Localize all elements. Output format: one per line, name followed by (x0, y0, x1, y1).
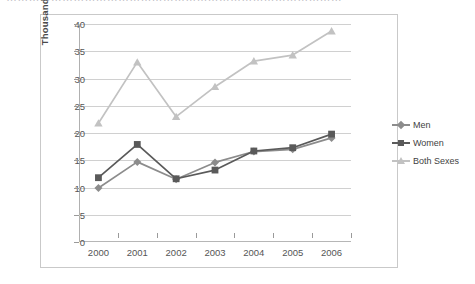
plot-area (79, 24, 351, 242)
data-point-marker (250, 148, 257, 155)
data-point-marker (212, 167, 219, 174)
y-tick-label: 30 (57, 73, 85, 84)
y-tick-label: 35 (57, 46, 85, 57)
legend-marker (397, 157, 405, 164)
clipped-header-text: ……………………………………………………………………………… (6, 0, 342, 3)
y-tick-mark (74, 106, 79, 107)
legend-item-women[interactable]: Women (392, 134, 472, 152)
chart-container: Thousands 0510152025303540 2000200120022… (40, 14, 398, 268)
legend-swatch-diamond-icon (392, 120, 410, 130)
data-point-marker (211, 158, 219, 166)
y-tick-label: 15 (57, 155, 85, 166)
y-tick-label: 20 (57, 128, 85, 139)
series-men (94, 134, 335, 192)
data-point-marker (95, 174, 102, 181)
x-tick-label: 2001 (115, 247, 159, 258)
y-tick-label: 5 (57, 209, 85, 220)
y-tick-label: 0 (57, 237, 85, 248)
x-tick-mark (196, 233, 197, 238)
x-tick-label: 2002 (154, 247, 198, 258)
data-point-marker (328, 131, 335, 138)
y-tick-mark (74, 160, 79, 161)
y-axis-title: Thousands (39, 0, 50, 67)
x-tick-mark (157, 233, 158, 238)
data-point-marker (94, 119, 102, 126)
legend-swatch-triangle-icon (392, 156, 410, 166)
x-tick-label: 2006 (310, 247, 354, 258)
x-tick-mark (234, 233, 235, 238)
legend-swatch-square-icon (392, 138, 410, 148)
series-line (98, 31, 331, 123)
legend-label: Women (413, 138, 444, 148)
x-tick-label: 2000 (76, 247, 120, 258)
legend-label: Men (413, 120, 431, 130)
y-tick-label: 10 (57, 182, 85, 193)
y-tick-label: 25 (57, 100, 85, 111)
y-tick-mark (74, 24, 79, 25)
legend-item-men[interactable]: Men (392, 116, 472, 134)
data-point-marker (133, 58, 141, 65)
x-tick-mark (312, 233, 313, 238)
y-tick-mark (74, 51, 79, 52)
legend-label: Both Sexes (413, 156, 459, 166)
data-point-marker (327, 27, 335, 34)
x-tick-label: 2005 (271, 247, 315, 258)
y-tick-mark (74, 133, 79, 134)
series-women (95, 131, 335, 182)
y-tick-mark (74, 242, 79, 243)
legend: MenWomenBoth Sexes (392, 116, 472, 170)
legend-marker (397, 121, 405, 129)
y-tick-label: 40 (57, 19, 85, 30)
x-tick-label: 2004 (232, 247, 276, 258)
x-tick-mark (273, 233, 274, 238)
data-point-marker (134, 141, 141, 148)
x-tick-label: 2003 (193, 247, 237, 258)
y-tick-mark (74, 79, 79, 80)
x-tick-mark (351, 233, 352, 238)
clipped-header-strip: ……………………………………………………………………………… (0, 0, 475, 7)
y-tick-mark (74, 215, 79, 216)
y-tick-mark (74, 188, 79, 189)
data-point-marker (289, 144, 296, 151)
series-both-sexes (94, 27, 336, 127)
x-tick-mark (118, 233, 119, 238)
legend-item-both-sexes[interactable]: Both Sexes (392, 152, 472, 170)
data-point-marker (173, 175, 180, 182)
legend-marker (398, 140, 404, 146)
series-layer (79, 24, 351, 242)
